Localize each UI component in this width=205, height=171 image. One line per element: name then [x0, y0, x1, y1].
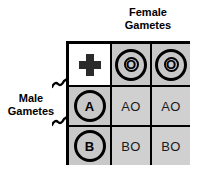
offspring-cell-1-2: AO	[152, 87, 190, 125]
female-gamete-circle-1: O	[115, 49, 147, 81]
female-gamete-inner-circle-2: O	[164, 57, 179, 72]
female-gamete-label-1: O	[126, 57, 136, 72]
male-gamete-circle-1: A	[74, 90, 106, 122]
male-gametes-label-line1: Male	[2, 92, 60, 105]
offspring-cell-2-1: BO	[112, 127, 150, 165]
header-cell-female-1: O	[112, 44, 150, 85]
offspring-cell-2-2: BO	[152, 127, 190, 165]
male-gamete-label-2: B	[85, 139, 94, 154]
offspring-genotype-1-1: AO	[121, 99, 140, 114]
offspring-genotype-2-1: BO	[121, 139, 140, 154]
offspring-genotype-1-2: AO	[161, 99, 180, 114]
female-gamete-label-2: O	[166, 57, 176, 72]
cross-icon	[79, 54, 101, 76]
punnett-grid: O O A AO AO B	[66, 41, 190, 165]
female-gametes-label: Female Gametes	[104, 6, 192, 32]
male-gamete-label-1: A	[85, 99, 94, 114]
offspring-genotype-2-2: BO	[161, 139, 180, 154]
header-cell-male-1: A	[69, 87, 110, 125]
male-gamete-circle-2: B	[74, 130, 106, 162]
grid-corner-cell	[69, 44, 110, 85]
female-gamete-circle-2: O	[155, 49, 187, 81]
female-gametes-label-line2: Gametes	[104, 19, 192, 32]
header-cell-male-2: B	[69, 127, 110, 165]
header-cell-female-2: O	[152, 44, 190, 85]
offspring-cell-1-1: AO	[112, 87, 150, 125]
female-gamete-inner-circle-1: O	[124, 57, 139, 72]
male-gametes-label: Male Gametes	[2, 92, 60, 118]
female-gametes-label-line1: Female	[104, 6, 192, 19]
punnett-square-diagram: Female Gametes Male Gametes O O	[0, 0, 205, 171]
